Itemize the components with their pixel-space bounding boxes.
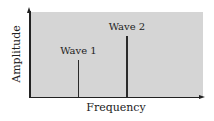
y-axis-line [29, 11, 31, 98]
stem-1 [78, 60, 80, 97]
y-axis-arrow-icon [27, 7, 31, 13]
x-axis-line [29, 97, 201, 99]
x-axis-label: Frequency [86, 101, 146, 114]
y-axis-label: Amplitude [11, 25, 22, 83]
stem-2 [126, 36, 128, 97]
stem-label-2: Wave 2 [109, 22, 145, 32]
x-axis-arrow-icon [199, 95, 205, 99]
stem-label-1: Wave 1 [60, 46, 96, 56]
